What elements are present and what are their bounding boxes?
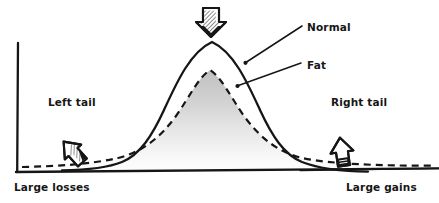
normal-leader-line bbox=[243, 26, 302, 65]
left-tail-label: Left tail bbox=[48, 97, 96, 108]
x-axis-right-label: Large gains bbox=[346, 182, 417, 193]
x-axis-left-label: Large losses bbox=[14, 182, 90, 193]
normal-curve-label: Normal bbox=[307, 22, 351, 33]
down-arrow-icon bbox=[196, 8, 226, 37]
fat-leader-line bbox=[235, 63, 301, 88]
right-tail-label: Right tail bbox=[331, 97, 387, 108]
fat-curve-label: Fat bbox=[307, 60, 326, 71]
fat-tails-diagram: Normal Fat Left tail Right tail Large lo… bbox=[0, 0, 439, 203]
vertical-axis bbox=[17, 43, 18, 172]
